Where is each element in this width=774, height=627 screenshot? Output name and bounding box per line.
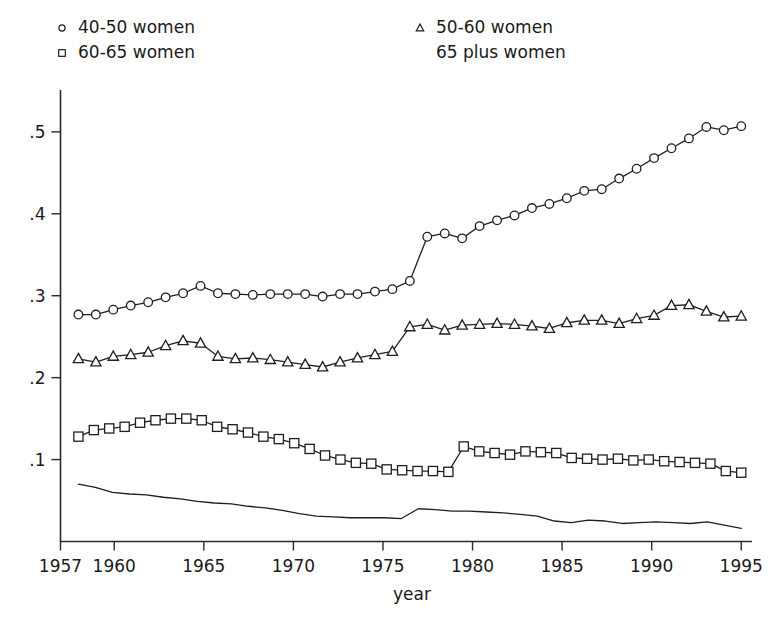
data-point-marker xyxy=(305,444,314,453)
data-point-marker xyxy=(660,457,669,466)
x-tick-label: 1980 xyxy=(451,556,494,576)
data-point-marker xyxy=(684,299,694,308)
data-point-marker xyxy=(388,285,397,294)
y-tick-label: .4 xyxy=(29,204,45,224)
x-tick-label: 1990 xyxy=(630,556,673,576)
series-50-60-women xyxy=(73,299,746,371)
data-point-marker xyxy=(89,425,98,434)
data-point-marker xyxy=(545,200,554,209)
data-point-marker xyxy=(536,448,545,457)
legend-entry: 60-65 women xyxy=(59,42,195,62)
data-point-marker xyxy=(318,292,327,301)
data-point-marker xyxy=(274,434,283,443)
legend-marker-square xyxy=(59,50,66,57)
chart-series xyxy=(73,122,746,529)
data-point-marker xyxy=(580,187,589,196)
data-point-marker xyxy=(632,164,641,173)
y-tick-label: .3 xyxy=(29,286,45,306)
data-point-marker xyxy=(144,298,153,307)
x-tick-label: 1985 xyxy=(540,556,583,576)
data-point-marker xyxy=(567,453,576,462)
data-point-marker xyxy=(736,311,746,320)
data-point-marker xyxy=(231,290,240,299)
data-point-marker xyxy=(563,194,572,203)
data-point-marker xyxy=(490,448,499,457)
data-point-marker xyxy=(367,459,376,468)
x-tick-label: 1995 xyxy=(720,556,763,576)
data-point-marker xyxy=(179,289,188,298)
data-point-marker xyxy=(685,134,694,143)
data-point-marker xyxy=(248,353,258,362)
data-point-marker xyxy=(552,448,561,457)
data-point-marker xyxy=(644,455,653,464)
data-point-marker xyxy=(249,291,258,300)
x-axis-title: year xyxy=(393,584,431,604)
data-point-marker xyxy=(182,414,191,423)
data-point-marker xyxy=(649,310,659,319)
data-point-marker xyxy=(197,416,206,425)
data-point-marker xyxy=(459,442,468,451)
data-point-marker xyxy=(74,310,83,319)
data-point-marker xyxy=(406,277,415,286)
x-tick-label: 1960 xyxy=(93,556,136,576)
x-tick-label: 1975 xyxy=(361,556,404,576)
data-point-marker xyxy=(650,154,659,163)
data-point-marker xyxy=(706,459,715,468)
data-point-marker xyxy=(243,428,252,437)
data-point-marker xyxy=(598,455,607,464)
legend-label: 60-65 women xyxy=(78,42,195,62)
data-point-marker xyxy=(166,414,175,423)
data-point-marker xyxy=(120,422,129,431)
data-point-marker xyxy=(259,432,268,441)
legend-label: 50-60 women xyxy=(436,17,553,37)
legend-entry: 40-50 women xyxy=(59,17,195,37)
data-point-marker xyxy=(720,126,729,135)
data-point-marker xyxy=(721,466,730,475)
data-point-marker xyxy=(228,425,237,434)
data-point-marker xyxy=(737,122,746,131)
y-axis-ticks: .1.2.3.4.5 xyxy=(29,122,60,470)
data-point-marker xyxy=(475,222,484,231)
data-point-marker xyxy=(493,216,502,225)
legend-entry: 50-60 women xyxy=(416,17,553,37)
x-tick-label: 1970 xyxy=(272,556,315,576)
data-point-marker xyxy=(413,466,422,475)
series-60-65-women xyxy=(74,414,746,477)
data-point-marker xyxy=(675,457,684,466)
data-point-marker xyxy=(283,290,292,299)
data-point-marker xyxy=(92,310,101,319)
data-point-marker xyxy=(178,335,188,344)
data-point-marker xyxy=(196,282,205,291)
data-point-marker xyxy=(336,290,345,299)
series-65-plus-women xyxy=(78,484,741,528)
data-point-marker xyxy=(440,229,449,238)
data-point-marker xyxy=(505,450,514,459)
legend-label: 65 plus women xyxy=(436,42,566,62)
legend-marker-circle xyxy=(59,25,65,31)
data-point-marker xyxy=(475,447,484,456)
data-point-marker xyxy=(528,204,537,213)
line-chart: 40-50 women50-60 women60-65 women65 plus… xyxy=(0,0,774,627)
legend-label: 40-50 women xyxy=(78,17,195,37)
data-point-marker xyxy=(126,301,135,310)
data-point-marker xyxy=(301,290,310,299)
data-point-marker xyxy=(213,351,223,360)
data-point-marker xyxy=(351,458,360,467)
data-point-marker xyxy=(690,458,699,467)
data-point-marker xyxy=(422,319,432,328)
data-point-marker xyxy=(579,315,589,324)
data-point-marker xyxy=(214,289,223,298)
data-point-marker xyxy=(423,232,432,241)
series-line xyxy=(78,419,741,473)
series-line xyxy=(78,484,741,528)
data-point-marker xyxy=(151,416,160,425)
series-line xyxy=(78,305,741,367)
x-tick-label: 1965 xyxy=(182,556,225,576)
data-point-marker xyxy=(702,123,711,132)
data-point-marker xyxy=(105,424,114,433)
y-tick-label: .2 xyxy=(29,368,45,388)
data-point-marker xyxy=(510,211,519,220)
data-point-marker xyxy=(597,315,607,324)
chart-legend: 40-50 women50-60 women60-65 women65 plus… xyxy=(59,17,566,62)
data-point-marker xyxy=(266,290,275,299)
